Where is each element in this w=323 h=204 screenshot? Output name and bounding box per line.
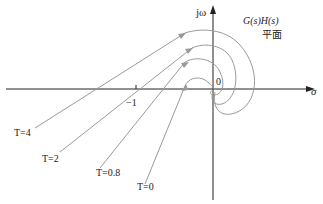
plane-label: G(s)H(s) (243, 15, 279, 27)
imaginary-axis-arrow-icon (210, 5, 216, 14)
tick-label-minus-one: −1 (126, 97, 137, 108)
nyquist-diagram: jω σ 0 −1 G(s)H(s) 平面 T=4 T=2 T=0.8 T=0 (0, 0, 323, 204)
imag-axis-label: jω (195, 6, 206, 18)
curve-t4 (35, 30, 255, 128)
curve-label-t4: T=4 (14, 127, 31, 138)
arrow-t4-icon (178, 33, 186, 39)
real-axis-label: σ (311, 85, 317, 97)
origin-label: 0 (216, 76, 221, 87)
curve-label-t08: T=0.8 (96, 167, 120, 178)
nyquist-curves (35, 30, 255, 184)
curve-t0 (145, 78, 214, 184)
plane-label-cn: 平面 (262, 29, 282, 40)
curve-label-t2: T=2 (42, 153, 59, 164)
curve-label-t0: T=0 (137, 181, 154, 192)
